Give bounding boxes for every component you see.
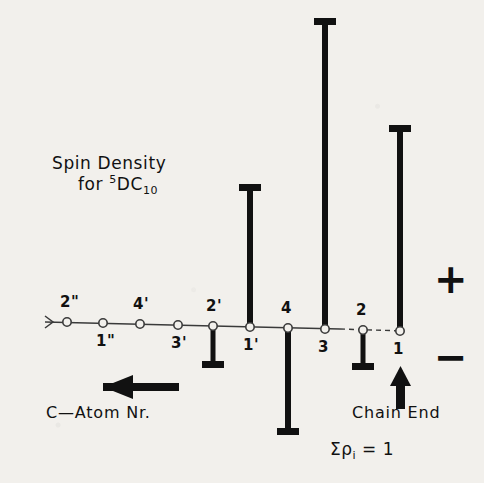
stem-cap	[389, 125, 411, 132]
sum-rule-sigma: Σρ	[330, 439, 353, 459]
title-molecule: DC	[117, 173, 143, 193]
atom-label-1p: 1'	[243, 337, 259, 354]
stem-cap	[352, 363, 374, 370]
page-title: Spin Density for 5DC10	[52, 154, 166, 197]
atom-node	[136, 320, 144, 328]
negative-sign-label: −	[434, 334, 468, 380]
title-for-text: for	[78, 173, 109, 193]
sum-rule-label: Σρi = 1	[330, 440, 394, 463]
title-subscript: 10	[143, 184, 158, 197]
positive-sign-label: +	[434, 256, 468, 302]
atom-label-3p: 3'	[171, 335, 187, 352]
atom-node	[63, 318, 71, 326]
atom-label-1: 1	[393, 341, 404, 358]
atom-node	[321, 325, 329, 333]
spin-density-figure: Spin Density for 5DC10 2"1"4'3'2'1'4321 …	[0, 0, 484, 483]
atom-label-1pp: 1"	[96, 333, 115, 350]
atom-node	[246, 323, 254, 331]
atom-node	[396, 327, 404, 335]
atom-node	[209, 322, 217, 330]
title-line-2: for 5DC10	[52, 174, 166, 198]
sum-rule-equals: = 1	[362, 439, 394, 459]
stem-cap	[202, 361, 224, 368]
atom-node	[174, 321, 182, 329]
direction-arrow-icon	[103, 375, 179, 399]
atom-node	[284, 324, 292, 332]
stem-bar	[397, 125, 403, 331]
stem-cap	[239, 184, 261, 191]
stem-bars	[202, 18, 411, 435]
stem-bar	[322, 18, 328, 329]
title-line-1: Spin Density	[52, 154, 166, 174]
atom-label-2p: 2'	[206, 298, 222, 315]
atom-node	[359, 326, 367, 334]
atom-label-2: 2	[356, 302, 367, 319]
atom-label-4p: 4'	[133, 296, 149, 313]
x-axis-caption: C—Atom Nr.	[46, 404, 151, 422]
stem-cap	[314, 18, 336, 25]
stem-cap	[277, 428, 299, 435]
atom-node	[99, 319, 107, 327]
title-superscript: 5	[109, 173, 117, 186]
stem-bar	[285, 328, 291, 435]
chain-end-label: Chain End	[352, 404, 440, 422]
sum-rule-subscript: i	[353, 449, 357, 462]
atom-label-2pp: 2"	[60, 294, 79, 311]
atom-label-3: 3	[318, 339, 329, 356]
atom-label-4: 4	[281, 300, 292, 317]
stem-bar	[247, 184, 253, 327]
